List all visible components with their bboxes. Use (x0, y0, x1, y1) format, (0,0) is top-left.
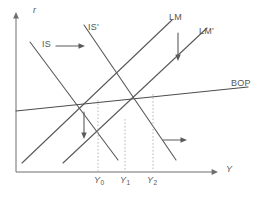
lm-curve-label: LM (169, 13, 182, 22)
annotations-group (56, 33, 187, 143)
bop-curve-label: BOP (231, 79, 251, 88)
is-shift-arrowhead (79, 43, 86, 48)
tick-label-y0-text: Y0 (94, 175, 104, 185)
output-expansion-arrowhead (181, 137, 188, 142)
lm-shift-arrowhead (175, 55, 180, 62)
lm-prime-curve (63, 28, 207, 163)
tick-label-y2: Y2 (147, 176, 157, 185)
droplines-group (98, 94, 153, 172)
tick-label-y1: Y1 (120, 176, 130, 185)
diagram-canvas (0, 0, 263, 200)
tick-label-y0: Y0 (94, 176, 104, 185)
bop-curve (16, 87, 248, 111)
tick-label-y2-text: Y2 (147, 175, 157, 185)
is-prime-curve-label: IS' (88, 23, 99, 32)
x-axis-arrowhead (212, 169, 218, 175)
tick-label-y1-text: Y1 (120, 175, 130, 185)
x-axis-label: Y (226, 165, 232, 174)
is-curve-label: IS (42, 40, 51, 49)
y-axis-arrowhead (13, 12, 19, 18)
lm-prime-curve-label: LM' (199, 27, 214, 36)
interest-rate-fall-arrowhead (81, 133, 86, 140)
y-axis-label: r (33, 6, 36, 15)
islm-bop-diagram: r Y IS IS' LM LM' BOP Y0 Y1 Y2 (0, 0, 263, 200)
